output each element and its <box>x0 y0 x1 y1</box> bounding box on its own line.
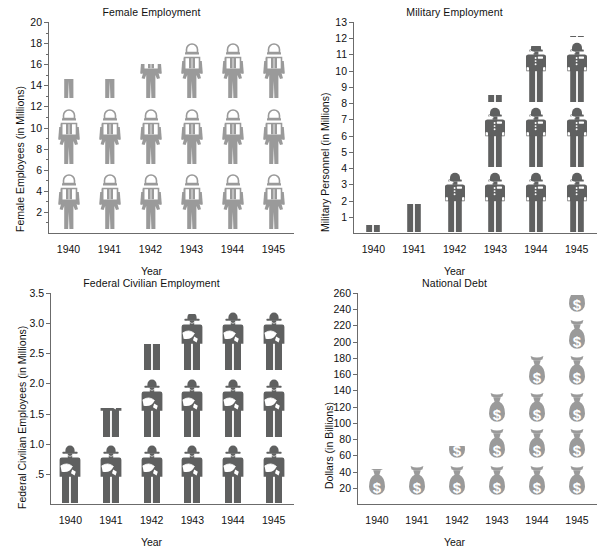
pictogram-stack <box>177 293 207 504</box>
pictogram-icon <box>562 41 592 103</box>
y-tick <box>353 390 357 391</box>
y-tick <box>44 191 48 192</box>
y-minor-tick <box>46 180 49 181</box>
pictogram-icon-partial <box>521 46 551 103</box>
y-tick <box>349 71 353 72</box>
pictogram-stack <box>358 22 388 233</box>
pictogram-stack <box>177 22 207 233</box>
pictogram-icon-partial <box>95 79 125 102</box>
y-tick <box>349 22 353 23</box>
pictogram-icon <box>177 376 207 438</box>
y-tick <box>349 184 353 185</box>
y-tick <box>46 414 50 415</box>
y-tick <box>349 217 353 218</box>
x-axis-line <box>50 504 294 505</box>
pictogram-icon <box>259 171 289 233</box>
x-axis-line <box>357 504 597 505</box>
x-tick-label: 1942 <box>140 514 163 526</box>
x-tick-label: 1940 <box>59 514 82 526</box>
y-tick-label: 2.5 <box>4 347 44 359</box>
pictogram-icon <box>218 309 248 371</box>
y-tick <box>44 212 48 213</box>
y-tick-label: 140 <box>311 384 351 396</box>
x-tick-label: 1942 <box>445 514 468 526</box>
y-tick <box>353 439 357 440</box>
y-tick <box>349 201 353 202</box>
pictogram-icon-partial <box>177 314 207 372</box>
pictogram-stack <box>218 22 248 233</box>
pictogram-icon-partial <box>358 225 388 233</box>
pictogram-icon <box>218 106 248 168</box>
y-minor-tick <box>46 33 49 34</box>
y-tick <box>44 43 48 44</box>
pictogram-icon-partial <box>54 79 84 102</box>
y-tick <box>46 293 50 294</box>
svg-text:$: $ <box>453 479 462 496</box>
svg-text:$: $ <box>573 442 582 459</box>
pictogram-icon <box>136 171 166 233</box>
pictogram-icon-partial <box>480 95 510 103</box>
y-tick-label: 6 <box>2 164 42 176</box>
pictogram-icon <box>480 106 510 168</box>
pictogram-icon <box>259 309 289 371</box>
y-tick <box>46 444 50 445</box>
y-tick-label: 9 <box>307 81 347 93</box>
y-minor-tick <box>46 201 49 202</box>
x-tick-label: 1941 <box>402 243 425 255</box>
y-tick-label: 14 <box>2 79 42 91</box>
y-tick <box>349 136 353 137</box>
x-axis-line <box>353 233 597 234</box>
y-tick-label: 3.5 <box>4 287 44 299</box>
y-tick-label: 180 <box>311 352 351 364</box>
pictogram-icon: $ <box>562 427 592 467</box>
y-tick-label: 240 <box>311 303 351 315</box>
x-tick-label: 1945 <box>565 514 588 526</box>
y-tick <box>349 103 353 104</box>
y-tick <box>349 54 353 55</box>
pictogram-stack: $ $ <box>402 293 432 504</box>
pictogram-icon: $ <box>562 391 592 431</box>
pictogram-icon-partial <box>440 171 470 233</box>
pictogram-stack <box>259 22 289 233</box>
x-tick-label: 1943 <box>484 243 507 255</box>
y-tick-label: 4 <box>307 162 347 174</box>
y-tick-label: 8 <box>307 97 347 109</box>
y-tick-label: 80 <box>311 433 351 445</box>
pictogram-icon <box>177 442 207 504</box>
y-tick <box>44 85 48 86</box>
pictogram-icon <box>137 442 167 504</box>
y-tick-label: 11 <box>307 48 347 60</box>
panel-title: Female Employment <box>0 6 303 18</box>
pictogram-icon: $ <box>522 391 552 431</box>
pictogram-icon: $ <box>482 391 512 431</box>
x-tick-label: 1940 <box>365 514 388 526</box>
pictogram-stack <box>259 293 289 504</box>
y-minor-tick <box>46 159 49 160</box>
pictogram-stack: $ <box>362 293 392 504</box>
pictogram-icon <box>177 171 207 233</box>
y-tick-label: 16 <box>2 58 42 70</box>
y-tick-label: 60 <box>311 449 351 461</box>
y-tick-label: 6 <box>307 130 347 142</box>
y-tick <box>44 149 48 150</box>
pictogram-stack <box>480 22 510 233</box>
pictogram-stack: $ $ $ $ $ $ <box>562 293 592 504</box>
y-minor-tick <box>46 138 49 139</box>
pictogram-icon <box>218 442 248 504</box>
pictogram-icon-partial: $ <box>522 350 552 358</box>
y-tick-label: 7 <box>307 113 347 125</box>
svg-text:$: $ <box>533 406 542 423</box>
pictogram-stack <box>55 293 85 504</box>
y-tick-label: 18 <box>2 37 42 49</box>
y-tick <box>44 106 48 107</box>
x-tick-label: 1941 <box>99 514 122 526</box>
pictogram-icon-partial: $ <box>482 392 512 394</box>
pictogram-icon-partial: $ <box>442 446 472 468</box>
y-axis-line <box>48 22 49 233</box>
pictogram-stack <box>136 22 166 233</box>
pictogram-icon: $ <box>402 464 432 504</box>
panel-federal-civilian-employment: Federal Civilian Employment Federal Civi… <box>0 271 303 542</box>
pictogram-icon: $ <box>442 464 472 504</box>
y-tick-label: 2 <box>307 195 347 207</box>
pictogram-stack <box>562 22 592 233</box>
